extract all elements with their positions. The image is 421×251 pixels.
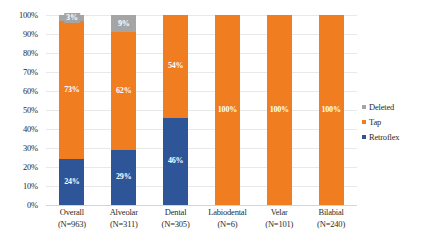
data-label: 29% (114, 172, 133, 182)
y-axis-tick-label: 10% (23, 181, 38, 191)
category-count: (N=240) (317, 219, 345, 231)
category-name: Overall (58, 207, 86, 219)
y-axis-tick-label: 40% (23, 124, 38, 134)
y-axis-tick-label: 50% (23, 105, 38, 115)
category-name: Alveolar (110, 207, 138, 219)
x-axis-category-label: Bilabial(N=240) (317, 207, 345, 230)
y-axis-tick-label: 100% (19, 10, 38, 20)
data-label: 9% (116, 19, 132, 29)
legend-swatch-icon (362, 120, 366, 124)
x-axis-category-label: Velar(N=101) (265, 207, 293, 230)
category-name: Labiodental (208, 207, 246, 219)
x-axis-category-label: Alveolar(N=311) (110, 207, 138, 230)
legend-swatch-icon (362, 135, 366, 139)
y-axis: 100%90%80%70%60%50%40%30%20%10%0% (0, 15, 42, 205)
y-axis-tick-label: 30% (23, 143, 38, 153)
y-axis-tick-label: 80% (23, 48, 38, 58)
chart-legend: DeletedTapRetroflex (362, 99, 421, 144)
category-count: (N=311) (110, 219, 138, 231)
y-axis-tick-label: 90% (23, 29, 38, 39)
y-axis-tick-label: 70% (23, 67, 38, 77)
legend-label: Retroflex (369, 132, 399, 142)
legend-label: Deleted (369, 102, 394, 112)
data-label: 73% (62, 85, 81, 95)
legend-item-tap[interactable]: Tap (362, 114, 421, 129)
category-count: (N=305) (162, 219, 190, 231)
stacked-bar-chart: 100%90%80%70%60%50%40%30%20%10%0% 24%73%… (0, 0, 421, 251)
legend-label: Tap (369, 117, 381, 127)
data-label: 46% (166, 156, 185, 166)
category-count: (N=963) (58, 219, 86, 231)
bar-group[interactable]: 100% (319, 15, 344, 205)
category-count: (N=6) (208, 219, 246, 231)
bar-group[interactable]: 100% (215, 15, 240, 205)
category-name: Dental (162, 207, 190, 219)
bar-group[interactable]: 29%62%9% (111, 15, 136, 205)
y-axis-tick-label: 0% (27, 200, 38, 210)
category-name: Velar (265, 207, 293, 219)
bar-group[interactable]: 24%73%3% (59, 15, 84, 205)
bar-series-container: 24%73%3%29%62%9%46%54%100%100%100% (46, 15, 357, 205)
bar-group[interactable]: 100% (267, 15, 292, 205)
x-axis-category-label: Dental(N=305) (162, 207, 190, 230)
x-axis: Overall(N=963)Alveolar(N=311)Dental(N=30… (46, 207, 357, 241)
data-label: 100% (216, 105, 239, 115)
x-axis-category-label: Labiodental(N=6) (208, 207, 246, 230)
plot-area: 24%73%3%29%62%9%46%54%100%100%100% (46, 15, 357, 205)
x-axis-category-label: Overall(N=963) (58, 207, 86, 230)
legend-swatch-icon (362, 105, 366, 109)
y-axis-tick-label: 20% (23, 162, 38, 172)
data-label: 62% (114, 86, 133, 96)
data-label: 100% (319, 105, 342, 115)
category-count: (N=101) (265, 219, 293, 231)
bar-group[interactable]: 46%54% (163, 15, 188, 205)
legend-item-deleted[interactable]: Deleted (362, 99, 421, 114)
category-name: Bilabial (317, 207, 345, 219)
gridline (46, 205, 357, 206)
data-label: 3% (64, 13, 80, 23)
data-label: 24% (62, 177, 81, 187)
data-label: 54% (166, 61, 185, 71)
data-label: 100% (268, 105, 291, 115)
y-axis-tick-label: 60% (23, 86, 38, 96)
legend-item-retroflex[interactable]: Retroflex (362, 129, 421, 144)
